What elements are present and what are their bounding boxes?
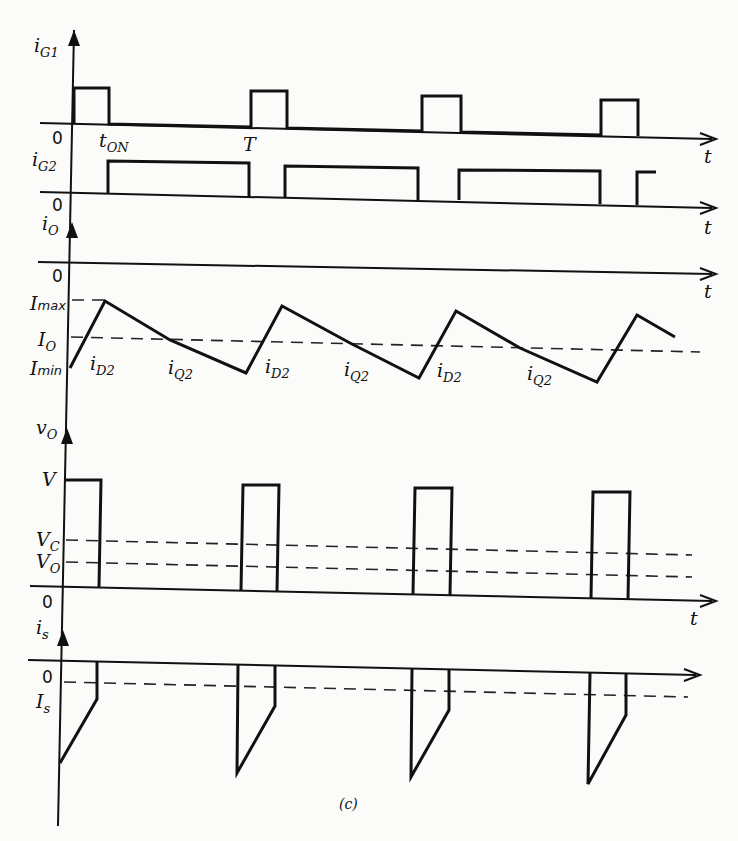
- is-zero-label: 0: [42, 667, 53, 687]
- vo-zero-label: 0: [42, 592, 53, 612]
- axis-arrow-icon: [66, 222, 78, 238]
- segment-iq2-label: iQ2: [344, 358, 369, 384]
- v-label: V: [42, 468, 58, 490]
- figure-caption: (c): [339, 796, 358, 812]
- io-t-label: t: [704, 280, 712, 302]
- waveform-diagram: iG1 0 tON T t iG2 0 t iO 0 t Imax IO Imi…: [0, 0, 738, 841]
- vo-average-dash: [66, 562, 692, 577]
- ig2-axis-label: iG2: [32, 148, 57, 174]
- io-waveform: [70, 301, 675, 382]
- ig2-waveform: [108, 161, 249, 197]
- panel-io: iO 0 t Imax IO Imin iD2 iQ2 iD2 iQ2 iD2 …: [29, 212, 716, 388]
- vc-dash: [66, 540, 692, 555]
- io-label: IO: [37, 328, 57, 354]
- ig1-t-label: t: [704, 145, 712, 167]
- panel-ig2: iG2 0 t: [32, 148, 716, 238]
- imax-label: Imax: [29, 292, 66, 314]
- is-label: Is: [35, 690, 51, 716]
- ig1-axis-label: iG1: [34, 34, 59, 60]
- vo-axis-label: vO: [36, 416, 58, 442]
- ig1-zero-label: 0: [52, 128, 63, 148]
- is-time-axis: [28, 660, 696, 675]
- io-average-dash: [71, 337, 700, 352]
- ig1-waveform: [74, 88, 638, 136]
- axis-arrow-icon: [61, 428, 73, 444]
- vertical-axis: [57, 30, 80, 826]
- ig2-zero-label: 0: [52, 195, 63, 215]
- is-waveform: [60, 662, 97, 763]
- vo-t-label: t: [690, 607, 698, 629]
- period-label: T: [243, 133, 257, 155]
- vo-waveform: [65, 480, 101, 587]
- io-axis-label: iO: [42, 212, 59, 238]
- ig2-t-label: t: [704, 216, 712, 238]
- io-time-axis: [38, 262, 712, 274]
- vo-time-axis: [30, 586, 712, 601]
- io-zero-label: 0: [52, 266, 63, 286]
- ig2-time-axis: [40, 192, 712, 208]
- segment-iq2-label: iQ2: [168, 356, 193, 382]
- segment-id2-label: iD2: [90, 352, 115, 378]
- is-axis-label: is: [36, 616, 49, 642]
- panel-is: is 0 Is: [28, 616, 700, 784]
- ton-label: tON: [99, 129, 129, 155]
- is-average-dash: [64, 682, 688, 697]
- panel-ig1: iG1 0 tON T t: [34, 34, 716, 167]
- segment-id2-label: iD2: [265, 355, 290, 381]
- segment-id2-label: iD2: [437, 359, 462, 385]
- axis-arrow-icon: [68, 30, 80, 46]
- axis-arrow-icon: [57, 630, 69, 646]
- imin-label: Imin: [29, 357, 62, 379]
- segment-iq2-label: iQ2: [527, 362, 552, 388]
- panel-vo: vO 0 t V VC VO: [30, 416, 716, 629]
